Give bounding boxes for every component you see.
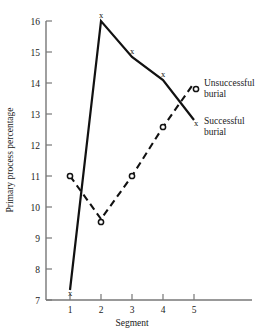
y-axis-title: Primary process percentage — [5, 108, 15, 213]
y-tick-label: 7 — [35, 296, 40, 306]
label-unsuccessful-burial-line2: burial — [204, 89, 227, 99]
marker-x-icon: x — [194, 118, 199, 128]
marker-o-icon — [160, 124, 165, 129]
marker-o-icon — [129, 173, 134, 178]
label-successful-burial-line2: burial — [204, 127, 227, 137]
x-tick-label: 1 — [68, 305, 73, 315]
marker-o-icon — [67, 173, 72, 178]
y-tick-marks — [46, 21, 52, 300]
marker-x-icon: x — [130, 46, 135, 56]
y-tick-label: 12 — [31, 141, 41, 151]
y-tick-label: 8 — [35, 265, 40, 275]
chart-container: 16 15 14 13 12 11 10 9 8 7 1 2 3 4 5 Seg… — [0, 0, 261, 328]
series-markers-unsuccessful-burial — [67, 86, 198, 224]
x-tick-marks — [70, 294, 194, 300]
y-tick-label: 9 — [35, 234, 40, 244]
marker-o-icon — [98, 219, 103, 224]
marker-x-icon: x — [68, 288, 73, 298]
x-axis-title: Segment — [115, 318, 149, 328]
y-tick-label: 14 — [31, 79, 41, 89]
x-tick-label: 3 — [130, 305, 135, 315]
marker-o-icon — [193, 86, 198, 91]
x-tick-label: 2 — [99, 305, 104, 315]
series-line-unsuccessful-burial — [70, 83, 194, 219]
label-unsuccessful-burial: Unsuccessful burial — [204, 78, 255, 99]
series-line-successful-burial — [70, 21, 194, 290]
y-tick-label: 11 — [31, 172, 40, 182]
x-tick-label: 4 — [161, 305, 166, 315]
marker-x-icon: x — [99, 10, 104, 20]
label-successful-burial-line1: Successful — [204, 116, 245, 126]
chart-canvas: 16 15 14 13 12 11 10 9 8 7 1 2 3 4 5 Seg… — [0, 0, 261, 328]
y-tick-label: 15 — [31, 48, 41, 58]
label-unsuccessful-burial-line1: Unsuccessful — [204, 78, 255, 88]
x-tick-label: 5 — [192, 305, 197, 315]
marker-x-icon: x — [161, 69, 166, 79]
y-tick-label: 13 — [31, 110, 41, 120]
label-successful-burial: Successful burial — [204, 116, 245, 137]
y-tick-label: 16 — [31, 17, 41, 27]
y-tick-label: 10 — [31, 203, 41, 213]
series-markers-successful-burial: x x x x x — [68, 10, 199, 298]
